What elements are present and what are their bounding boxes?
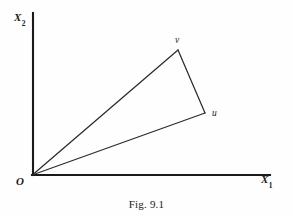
point-label-u: u bbox=[212, 109, 217, 119]
y-axis-label-subscript: 2 bbox=[22, 19, 26, 28]
x-axis-label-subscript: 1 bbox=[269, 181, 273, 190]
y-axis-label-base: X bbox=[14, 11, 21, 23]
origin-label: O bbox=[16, 176, 24, 187]
figure-container: X2 X1 O v u Fig. 9.1 bbox=[0, 0, 293, 216]
vector-o-to-u bbox=[34, 113, 206, 175]
y-axis-label: X2 bbox=[14, 12, 25, 26]
x-axis-label: X1 bbox=[261, 174, 272, 188]
x-axis-label-base: X bbox=[261, 173, 268, 185]
edge-v-to-u bbox=[178, 50, 205, 113]
point-label-v: v bbox=[175, 36, 179, 46]
figure-caption: Fig. 9.1 bbox=[0, 198, 293, 210]
vector-diagram-canvas bbox=[0, 0, 293, 216]
vector-o-to-v bbox=[34, 50, 179, 174]
